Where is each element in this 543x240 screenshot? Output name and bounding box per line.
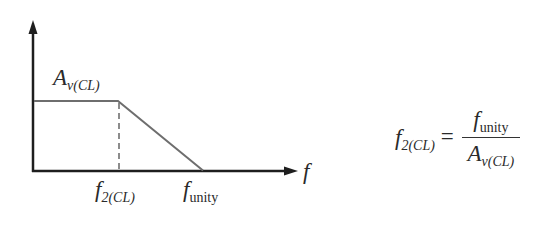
formula-denominator: Av(CL): [464, 138, 517, 166]
formula-numerator: funity: [470, 107, 511, 136]
numerator-main: f: [473, 107, 479, 132]
formula-lhs: f2(CL): [395, 126, 435, 149]
numerator-sub: unity: [480, 120, 509, 135]
formula-lhs-sub: 2(CL): [401, 138, 434, 153]
gain-label: Av(CL): [53, 66, 100, 89]
gain-label-sub: v(CL): [67, 78, 100, 93]
cutoff-label-sub: 2(CL): [101, 190, 134, 205]
y-axis-arrow-icon: [29, 20, 38, 34]
denominator-main: A: [467, 141, 481, 166]
cutoff-formula: f2(CL) = funity Av(CL): [395, 104, 520, 170]
unity-frequency-label: funity: [183, 178, 218, 201]
gain-label-main: A: [53, 65, 67, 90]
unity-label-sub: unity: [189, 190, 218, 205]
denominator-sub: v(CL): [482, 154, 515, 169]
x-axis: [32, 167, 298, 176]
equals-sign: =: [441, 124, 454, 150]
formula-fraction: funity Av(CL): [462, 107, 520, 166]
cutoff-frequency-label: f2(CL): [95, 178, 135, 201]
x-axis-arrow-icon: [284, 167, 298, 176]
x-axis-label: f: [303, 160, 309, 183]
y-axis: [29, 20, 38, 172]
